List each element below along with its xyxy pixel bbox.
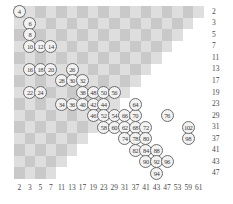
y-tick-label: 3 <box>212 18 228 27</box>
y-tick-label: 7 <box>212 41 228 50</box>
y-tick-label: 19 <box>212 88 228 97</box>
y-tick-label: 43 <box>212 157 228 166</box>
goldbach-scatter-chart: 4681012141618202224262830323436384042464… <box>0 0 233 204</box>
y-tick-label: 11 <box>212 53 228 62</box>
y-axis: 23571113171923293137414347 <box>0 0 233 204</box>
y-tick-label: 23 <box>212 99 228 108</box>
y-tick-label: 17 <box>212 76 228 85</box>
y-tick-label: 47 <box>212 168 228 177</box>
y-tick-label: 41 <box>212 145 228 154</box>
y-tick-label: 5 <box>212 30 228 39</box>
y-tick-label: 29 <box>212 111 228 120</box>
y-tick-label: 31 <box>212 122 228 131</box>
y-tick-label: 37 <box>212 134 228 143</box>
y-tick-label: 2 <box>212 7 228 16</box>
y-tick-label: 13 <box>212 64 228 73</box>
